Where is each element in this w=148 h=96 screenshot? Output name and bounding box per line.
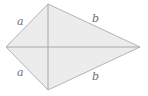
label-upper-left-side: a: [17, 16, 24, 27]
kite-diagram: a a b b: [0, 0, 148, 96]
label-lower-right-side: b: [92, 71, 99, 82]
label-upper-right-side: b: [92, 13, 99, 24]
label-lower-left-side: a: [17, 67, 24, 78]
